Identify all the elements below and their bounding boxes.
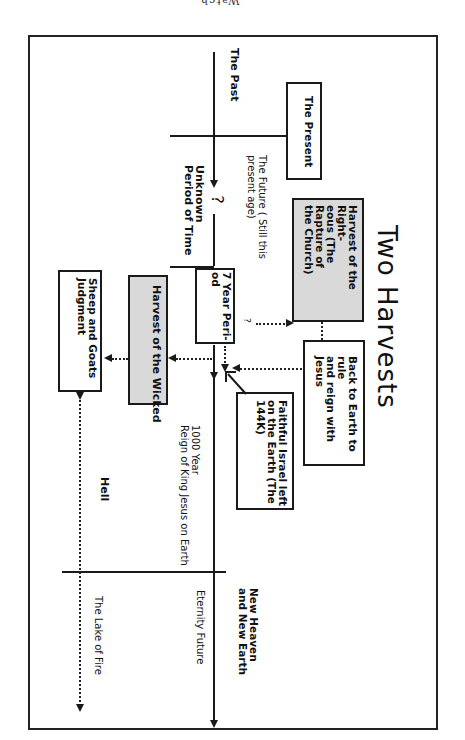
wicked-arrow — [168, 354, 176, 362]
faithful-israel-label: Faithful Israel left on the Earth (The 1… — [255, 400, 288, 506]
rapture-question-mark: ? — [241, 318, 252, 323]
present-label: The Present — [303, 96, 314, 167]
eternity-divider — [62, 571, 226, 573]
hell-label: Hell — [99, 477, 110, 501]
righteous-to-return-dotted — [321, 322, 323, 340]
timeline-present — [213, 122, 215, 182]
back-to-earth-label: Back to Earth to rule and reign with Jes… — [314, 356, 358, 463]
future-label: The Future ( Still this present age) — [246, 155, 268, 259]
rapture-dotted-line — [256, 323, 288, 325]
unknown-question-mark: ? — [208, 195, 227, 204]
eternity-arrow — [210, 720, 218, 728]
new-heaven-label: New Heaven and New Earth — [237, 588, 259, 675]
timeline-unknown — [213, 214, 215, 266]
page-header: Watch — [200, 0, 240, 7]
unknown-period-label: Unknown Period of Time — [183, 165, 205, 255]
hell-dotted-line — [79, 392, 81, 710]
lake-of-fire-label: The Lake of Fire — [93, 596, 104, 675]
rapture-arrow — [286, 319, 294, 327]
millennium-label: 1000 Year Reign of King Jesus on Earth — [179, 425, 201, 566]
lake-of-fire-arrow — [76, 704, 84, 712]
sheep-goats-down-arrow — [76, 392, 84, 400]
timeline-millennium — [213, 345, 215, 725]
eternity-future-label: Eternity Future — [195, 590, 206, 664]
timeline-past — [213, 52, 215, 122]
israel-pointer-arrow — [222, 368, 252, 398]
seven-year-label: 7 Year Peri- od — [210, 272, 232, 341]
seven-year-dotted — [224, 346, 226, 366]
past-label: The Past — [229, 48, 240, 102]
present-divider — [170, 135, 288, 137]
wicked-dotted-line — [176, 358, 212, 360]
timeline-arrow — [210, 180, 218, 188]
harvest-righteous-label: Harvest of the Right- eous (The Rapture … — [303, 205, 358, 312]
harvest-wicked-label: Harvest of the Wicked — [151, 285, 162, 423]
diagram-title: Two Harvests — [372, 225, 402, 409]
judgment-dotted-line — [112, 358, 128, 360]
sheep-goats-label: Sheep and Goats Judgment — [76, 278, 98, 378]
millennium-arrow — [210, 372, 218, 380]
judgment-arrow — [104, 354, 112, 362]
